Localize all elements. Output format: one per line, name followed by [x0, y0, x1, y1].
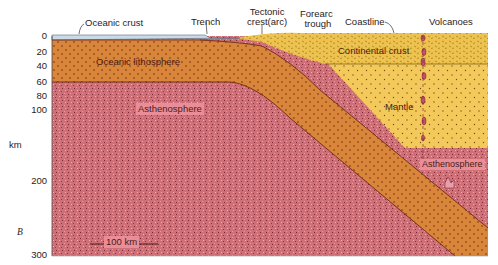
depth-tick-100: 100 [17, 105, 47, 115]
label-asthenosphere-left: Asthenosphere [136, 103, 204, 115]
label-forearc-trough-line2: trough [300, 19, 333, 29]
label-oceanic-lithosphere: Oceanic lithosphere [94, 56, 182, 68]
depth-tick-80: 80 [17, 91, 47, 101]
label-oceanic-crust: Oceanic crust [85, 18, 143, 28]
label-scale-bar: 100 km [104, 236, 139, 248]
label-tectonic-crest-line2: crest(arc) [247, 17, 287, 27]
depth-tick-200: 200 [17, 176, 47, 186]
label-coastline: Coastline [345, 17, 385, 27]
depth-tick-0: 0 [17, 31, 47, 41]
label-mantle: Mantle [383, 101, 416, 113]
depth-tick-20: 20 [17, 47, 47, 57]
label-continental-crust: Continental crust [336, 45, 411, 57]
label-trench: Trench [191, 17, 220, 27]
subduction-cross-section [0, 0, 498, 265]
label-tectonic-crest: Tectonic crest(arc) [247, 7, 287, 26]
panel-label: B [17, 228, 23, 238]
label-forearc-trough: Forearc trough [300, 9, 333, 28]
label-asthenosphere-right: Asthenosphere [420, 159, 485, 170]
depth-axis-unit: km [9, 140, 22, 150]
depth-tick-60: 60 [17, 77, 47, 87]
depth-tick-40: 40 [17, 61, 47, 71]
depth-tick-300: 300 [17, 250, 47, 260]
label-volcanoes: Volcanoes [429, 17, 473, 27]
